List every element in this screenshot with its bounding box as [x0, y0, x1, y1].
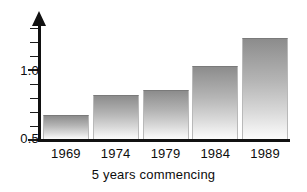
y-axis-tick-minor [30, 28, 38, 29]
y-axis-tick-minor [30, 56, 38, 57]
y-axis-tick-minor [30, 112, 38, 113]
y-axis-label-upper: 1.0 [20, 63, 39, 78]
bar-chart: 1.0 0.5 19691974197919841989 5 years com… [0, 0, 307, 192]
bar-1979 [143, 90, 189, 139]
y-axis-tick-minor [30, 126, 38, 127]
x-axis-label-1989: 1989 [235, 146, 295, 161]
y-axis-tick-minor [30, 98, 38, 99]
plot-area [41, 24, 290, 139]
y-axis-label-lower: 0.5 [20, 131, 39, 146]
bar-1974 [93, 95, 139, 139]
bar-1969 [43, 115, 89, 139]
bar-1989 [242, 38, 288, 139]
x-axis-line [38, 139, 290, 142]
y-axis-tick-minor [30, 42, 38, 43]
y-axis-tick-minor [30, 84, 38, 85]
x-axis-title: 5 years commencing [0, 167, 307, 182]
bar-1984 [192, 66, 238, 139]
